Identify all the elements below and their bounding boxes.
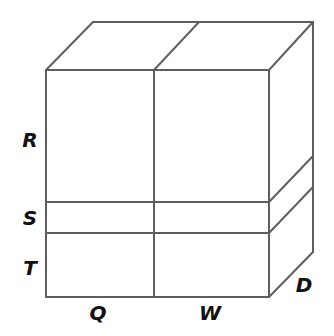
label-t: T — [23, 256, 38, 280]
top-face — [46, 22, 313, 70]
label-r: R — [22, 128, 37, 152]
box-diagram: R S T Q W D — [0, 0, 334, 336]
label-d: D — [296, 273, 313, 297]
label-q: Q — [89, 301, 106, 325]
front-face — [46, 70, 269, 297]
label-s: S — [23, 206, 37, 230]
label-w: W — [199, 301, 222, 325]
